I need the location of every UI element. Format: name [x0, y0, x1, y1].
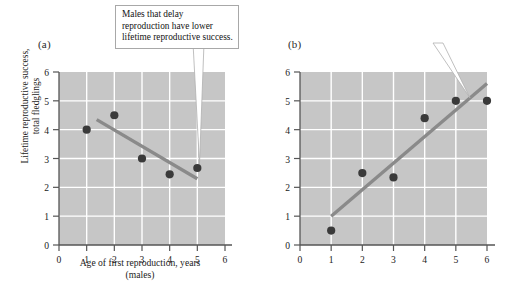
y-axis-tick-labels: 6 5 4 3 2 1 0: [285, 67, 290, 251]
x-tick-label: 6: [485, 254, 490, 265]
y-tick-label: 4: [285, 125, 290, 136]
data-point: [110, 111, 118, 119]
data-point: [358, 169, 366, 177]
x-axis-title-sub: (males): [40, 269, 240, 281]
data-point: [452, 97, 460, 105]
y-axis-ticks: [294, 72, 300, 245]
y-tick-label: 0: [285, 240, 290, 251]
y-tick-label: 3: [285, 154, 290, 165]
data-point: [327, 226, 335, 234]
y-tick-label: 0: [44, 240, 49, 251]
panel-b: (b): [255, 0, 505, 297]
x-axis-ticks: [59, 245, 225, 251]
data-point: [421, 114, 429, 122]
data-point: [389, 173, 397, 181]
y-tick-label: 5: [44, 96, 49, 107]
panel-b-plot: 6 5 4 3 2 1 0 0 1 2 3 4 5 6: [255, 0, 505, 297]
y-tick-label: 2: [285, 182, 290, 193]
data-point: [83, 126, 91, 134]
x-tick-label: 1: [329, 254, 334, 265]
data-point: [166, 170, 174, 178]
y-tick-label: 6: [44, 67, 49, 78]
x-tick-label: 3: [391, 254, 396, 265]
figure-container: (a) Lifetime reproductive success, total…: [0, 0, 505, 297]
x-axis-title-a: Age of first reproduction, years (males): [40, 257, 240, 281]
y-axis-tick-labels: 6 5 4 3 2 1 0: [44, 67, 49, 251]
data-point: [193, 164, 201, 172]
x-tick-label: 2: [360, 254, 365, 265]
x-axis-tick-labels: 0 1 2 3 4 5 6: [298, 254, 490, 265]
x-tick-label: 4: [422, 254, 427, 265]
y-tick-label: 5: [285, 96, 290, 107]
y-tick-label: 2: [44, 182, 49, 193]
x-axis-title-main: Age of first reproduction, years: [80, 257, 201, 268]
y-tick-label: 4: [44, 125, 49, 136]
panel-a: (a) Lifetime reproductive success, total…: [0, 0, 255, 297]
y-axis-ticks: [53, 72, 59, 245]
x-axis-ticks: [300, 245, 487, 251]
y-tick-label: 1: [44, 211, 49, 222]
y-tick-label: 3: [44, 154, 49, 165]
data-point: [483, 97, 491, 105]
callout-a: Males that delay reproduction have lower…: [115, 5, 239, 49]
y-tick-label: 1: [285, 211, 290, 222]
y-tick-label: 6: [285, 67, 290, 78]
x-tick-label: 0: [298, 254, 303, 265]
x-tick-label: 5: [453, 254, 458, 265]
data-point: [138, 154, 146, 162]
